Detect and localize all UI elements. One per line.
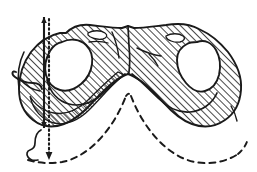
engraving-illustration: [0, 0, 257, 172]
figure-container: [0, 0, 257, 172]
measure-arrow-top-icon: [41, 17, 47, 23]
lower-left-hook-outline: [27, 130, 41, 160]
dashed-arc-right-tail: [238, 139, 248, 154]
detail-mark-left-icon: [88, 31, 107, 40]
dotted-axis-arrow-icon: [46, 152, 53, 160]
